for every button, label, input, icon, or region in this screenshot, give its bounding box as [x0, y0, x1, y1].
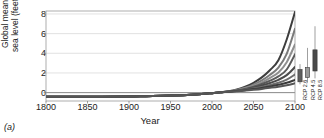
boxplot-box — [313, 50, 317, 71]
boxplot — [313, 26, 317, 78]
figure-panel-a: Global mean sea level (feet) 02468 18001… — [0, 0, 324, 138]
series-line — [46, 54, 295, 97]
boxplot-label: RCP 4.5 — [310, 80, 316, 100]
boxplot — [305, 48, 309, 83]
boxplot-label: RCP 8.5 — [317, 80, 323, 100]
boxplot-box — [305, 68, 309, 78]
panel-label: (a) — [4, 122, 15, 132]
boxplot-label: RCP 2.6 — [302, 80, 308, 100]
x-axis-title: Year — [0, 115, 300, 126]
series-group — [46, 12, 295, 97]
